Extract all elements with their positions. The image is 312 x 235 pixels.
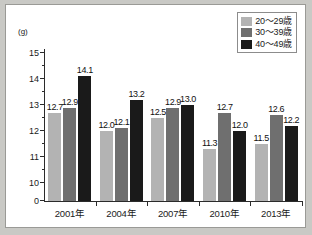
bar-group: 11.512.612.2 bbox=[250, 49, 302, 201]
bar: 11.5 bbox=[255, 144, 268, 201]
bar: 12.0 bbox=[100, 131, 113, 201]
legend-swatch-30-39 bbox=[241, 28, 252, 37]
bar: 12.9 bbox=[166, 108, 179, 201]
bar-value-label: 12.9 bbox=[62, 98, 78, 107]
bar-value-label: 12.5 bbox=[150, 108, 166, 117]
x-axis-label: 2007年 bbox=[158, 206, 188, 220]
bar-value-label: 12.7 bbox=[47, 103, 63, 112]
bar-group: 11.312.712.0 bbox=[199, 49, 251, 201]
bar-group: 12.012.113.2 bbox=[96, 49, 148, 201]
x-axis-label: 2001年 bbox=[55, 206, 85, 220]
x-axis-line bbox=[44, 201, 303, 202]
plot-area: 151413121110012.712.914.12001年12.012.113… bbox=[44, 49, 302, 201]
bar: 12.5 bbox=[151, 118, 164, 201]
bar-value-label: 12.0 bbox=[98, 121, 114, 130]
bar-value-label: 12.6 bbox=[268, 105, 284, 114]
legend-item-20-29: 20～29歳 bbox=[241, 16, 292, 27]
chart-legend: 20～29歳 30～39歳 40～49歳 bbox=[237, 12, 297, 53]
bar-group: 12.512.913.0 bbox=[147, 49, 199, 201]
bar: 12.2 bbox=[285, 126, 298, 201]
x-axis-group-tick bbox=[96, 201, 97, 206]
bar: 12.9 bbox=[63, 108, 76, 201]
bar-value-label: 11.3 bbox=[202, 139, 217, 148]
bar: 13.2 bbox=[130, 100, 143, 201]
bar-value-label: 13.2 bbox=[128, 90, 144, 99]
y-tick-label: 0 bbox=[34, 197, 39, 206]
bar: 12.1 bbox=[115, 128, 128, 201]
x-axis-label: 2004年 bbox=[106, 206, 136, 220]
bar-value-label: 12.7 bbox=[217, 103, 233, 112]
legend-swatch-40-49 bbox=[241, 40, 252, 49]
y-tick-label: 10 bbox=[29, 179, 39, 188]
x-axis-group-tick bbox=[250, 201, 251, 206]
legend-swatch-20-29 bbox=[241, 17, 252, 26]
bar: 12.7 bbox=[48, 113, 61, 201]
y-axis-unit-label: (g) bbox=[18, 27, 28, 36]
legend-label-40-49: 40～49歳 bbox=[255, 40, 292, 49]
bar: 12.6 bbox=[270, 115, 283, 201]
y-tick-label: 15 bbox=[29, 49, 39, 58]
bar-value-label: 12.1 bbox=[113, 118, 129, 127]
bar: 14.1 bbox=[78, 76, 91, 201]
bar: 11.3 bbox=[203, 149, 216, 201]
y-tick-label: 12 bbox=[29, 127, 39, 136]
bar-value-label: 12.2 bbox=[283, 116, 299, 125]
bar: 12.0 bbox=[233, 131, 246, 201]
legend-label-30-39: 30～39歳 bbox=[255, 28, 292, 37]
bar-value-label: 12.0 bbox=[232, 121, 248, 130]
bar: 12.7 bbox=[218, 113, 231, 201]
bar-value-label: 14.1 bbox=[77, 66, 93, 75]
bar-value-label: 12.9 bbox=[165, 98, 181, 107]
legend-item-30-39: 30～39歳 bbox=[241, 27, 292, 38]
legend-label-20-29: 20～29歳 bbox=[255, 17, 292, 26]
bar-value-label: 13.0 bbox=[180, 95, 196, 104]
bar: 13.0 bbox=[181, 105, 194, 201]
bar-group: 12.712.914.1 bbox=[44, 49, 96, 201]
legend-item-40-49: 40～49歳 bbox=[241, 39, 292, 50]
y-tick-label: 14 bbox=[29, 75, 39, 84]
y-tick-label: 11 bbox=[30, 153, 39, 162]
x-axis-group-tick bbox=[302, 201, 303, 206]
x-axis-group-tick bbox=[147, 201, 148, 206]
y-tick-label: 13 bbox=[29, 101, 39, 110]
x-axis-label: 2010年 bbox=[210, 206, 240, 220]
x-axis-group-tick bbox=[199, 201, 200, 206]
chart-card: 20～29歳 30～39歳 40～49歳 (g) 151413121110012… bbox=[5, 4, 306, 228]
chart-screenshot: 20～29歳 30～39歳 40～49歳 (g) 151413121110012… bbox=[0, 0, 312, 235]
x-axis-label: 2013年 bbox=[261, 206, 291, 220]
bar-value-label: 11.5 bbox=[254, 134, 269, 143]
